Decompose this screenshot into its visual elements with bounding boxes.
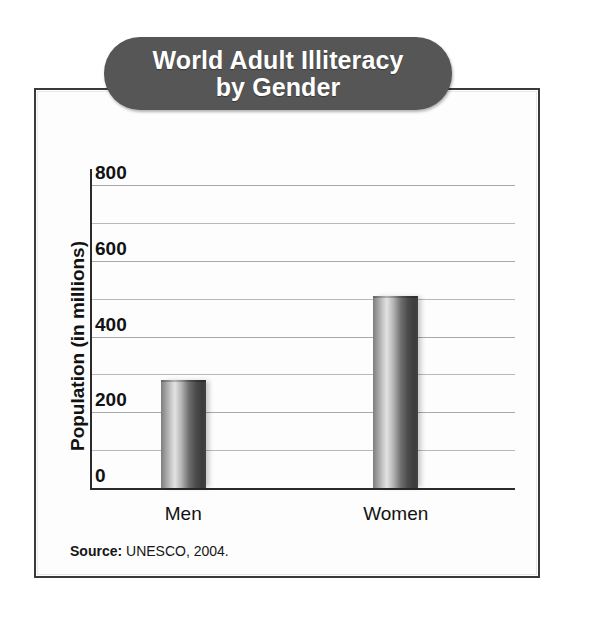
gridline xyxy=(92,374,515,375)
y-axis-tick-label: 200 xyxy=(95,389,127,412)
bar-women xyxy=(373,296,418,488)
gridline xyxy=(92,299,515,300)
source-label: Source: xyxy=(70,543,122,559)
gridline xyxy=(92,261,515,262)
x-axis-line xyxy=(90,488,515,490)
x-axis-tick-label: Women xyxy=(363,503,428,525)
x-axis-tick-label: Men xyxy=(165,503,202,525)
chart-title-line-1: World Adult Illiteracy xyxy=(153,46,404,74)
source-note: Source: UNESCO, 2004. xyxy=(70,543,229,559)
chart-title-banner: World Adult Illiteracy by Gender xyxy=(104,37,452,110)
y-axis-tick-label: 0 xyxy=(95,465,106,488)
chart-title: World Adult Illiteracy by Gender xyxy=(139,47,418,100)
y-axis-tick-label: 800 xyxy=(95,162,127,185)
y-axis-tick-label: 600 xyxy=(95,238,127,261)
plot-area: 0200400600800 Population (in millions) M… xyxy=(90,185,515,488)
source-value: UNESCO, 2004. xyxy=(122,543,229,559)
gridline xyxy=(92,450,515,451)
gridline xyxy=(92,185,515,186)
chart-figure: World Adult Illiteracy by Gender 0200400… xyxy=(0,0,589,617)
bar-men xyxy=(161,380,206,488)
gridline xyxy=(92,223,515,224)
gridline xyxy=(92,337,515,338)
y-axis-tick-label: 400 xyxy=(95,314,127,337)
gridline xyxy=(92,412,515,413)
y-axis-title: Population (in millions) xyxy=(67,241,89,451)
chart-title-line-2: by Gender xyxy=(153,74,404,101)
y-axis-line xyxy=(90,169,92,488)
